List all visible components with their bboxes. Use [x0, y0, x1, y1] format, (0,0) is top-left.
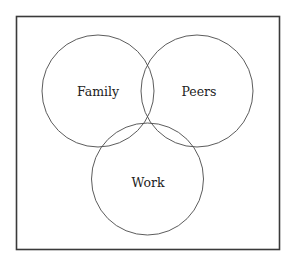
label-family: Family: [77, 84, 120, 99]
label-work: Work: [131, 175, 165, 190]
label-peers: Peers: [181, 84, 216, 99]
diagram-frame: [17, 17, 280, 250]
venn-diagram: Family Peers Work: [0, 0, 294, 261]
